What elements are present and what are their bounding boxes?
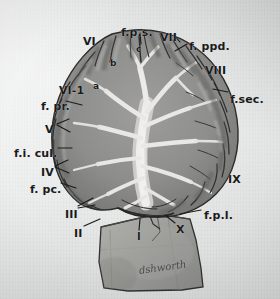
label-lobule-III: III	[65, 209, 78, 220]
label-fissura-secunda: f.sec.	[230, 94, 264, 105]
brainstem-block	[93, 214, 203, 293]
label-lobule-VI: VI	[83, 36, 96, 47]
label-lobule-IX: IX	[228, 174, 241, 185]
label-fissura-posterolateralis: f.p.l.	[204, 210, 233, 221]
label-fissura-prepyramidalis-dorsalis: f. ppd.	[189, 41, 230, 52]
label-lobule-I: I	[137, 232, 141, 242]
label-lobule-II: II	[74, 228, 82, 239]
label-lobule-X: X	[176, 224, 185, 235]
label-lobule-V: V	[45, 124, 54, 135]
label-lobule-VII: VII	[160, 32, 177, 43]
label-fissura-postcentralis: f. pc.	[30, 184, 61, 195]
leader-II	[84, 219, 100, 226]
label-fissura-prima-superior: f.p.s.	[121, 27, 153, 38]
label-folium-b: b	[110, 59, 117, 68]
label-folium-c: c	[136, 45, 141, 54]
label-lobule-VIII: VIII	[205, 65, 226, 76]
label-fissura-intraculminaris: f.i. cul.	[14, 148, 57, 159]
label-folium-a: a	[93, 82, 99, 91]
cerebellum-figure: VIf.p.s.VIIf. ppd.VIIIf.sec.VI-1f. pr.Vf…	[0, 0, 280, 299]
label-lobule-VI-1: VI-1	[59, 85, 84, 96]
label-fissura-prima: f. pr.	[41, 101, 70, 112]
label-lobule-IV: IV	[41, 167, 54, 178]
